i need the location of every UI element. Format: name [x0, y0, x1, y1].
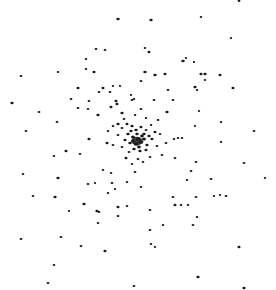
star-dot	[144, 47, 147, 49]
star-dot	[110, 172, 113, 174]
star-dot	[173, 138, 176, 140]
star-dot	[204, 79, 206, 81]
star-dot	[140, 108, 143, 110]
star-dot	[115, 103, 118, 105]
star-dot	[144, 149, 147, 151]
star-dot	[140, 135, 144, 138]
star-dot	[130, 125, 133, 128]
star-dot	[134, 114, 137, 116]
star-dot	[213, 195, 215, 197]
star-dot	[107, 130, 110, 132]
star-dot	[218, 74, 221, 76]
star-dot	[107, 192, 110, 194]
star-dot	[98, 211, 101, 213]
star-dot	[200, 16, 203, 18]
star-dot	[153, 131, 156, 133]
star-dot	[159, 133, 162, 135]
star-dot	[124, 157, 127, 159]
star-dot	[167, 89, 170, 91]
star-dot	[56, 177, 59, 180]
star-dot	[220, 141, 223, 143]
star-dot	[264, 177, 266, 179]
star-dot	[150, 243, 153, 245]
star-dot	[47, 282, 50, 284]
star-dot	[149, 209, 152, 211]
star-field-image	[0, 0, 276, 290]
star-dot	[219, 194, 221, 196]
star-dot	[98, 91, 101, 93]
star-dot	[114, 188, 116, 190]
star-dot	[123, 139, 126, 141]
star-dot	[154, 246, 156, 248]
star-dot	[25, 130, 28, 132]
star-dot	[174, 157, 177, 159]
star-dot	[88, 100, 91, 102]
star-dot	[117, 215, 120, 217]
star-dot	[172, 196, 175, 198]
star-dot	[82, 203, 85, 206]
star-dot	[133, 285, 136, 287]
star-dot	[192, 224, 195, 226]
star-dot	[76, 87, 79, 89]
star-dot	[194, 125, 196, 127]
star-dot	[195, 196, 198, 198]
star-dot	[220, 121, 223, 123]
star-dot	[121, 127, 124, 129]
star-dot	[210, 178, 213, 180]
star-dot	[196, 89, 199, 91]
star-dot	[104, 49, 107, 51]
star-dot	[138, 150, 141, 153]
star-dot	[139, 126, 142, 128]
star-dot	[181, 60, 185, 63]
star-dot	[142, 137, 146, 140]
star-dot	[253, 130, 256, 132]
star-dot	[116, 123, 119, 126]
star-dot	[231, 87, 234, 89]
star-dot	[126, 133, 130, 136]
star-dot	[94, 182, 96, 184]
star-dot	[134, 142, 138, 145]
star-dot	[101, 87, 104, 89]
star-dot	[150, 124, 153, 126]
star-dot	[116, 18, 120, 21]
star-dot	[129, 130, 132, 133]
star-dot	[133, 98, 136, 100]
star-dot	[181, 137, 184, 139]
star-dot	[149, 156, 152, 158]
star-dot	[77, 107, 80, 109]
star-dot	[53, 264, 56, 266]
star-dot	[132, 148, 136, 151]
star-dot	[142, 161, 145, 163]
star-dot	[125, 123, 128, 125]
star-dot	[131, 139, 135, 142]
star-dot	[177, 137, 180, 139]
star-dot	[57, 71, 60, 73]
star-dot	[173, 204, 176, 206]
star-dot	[186, 179, 189, 181]
star-dot	[126, 205, 129, 207]
star-dot	[153, 74, 157, 77]
star-dot	[119, 85, 121, 87]
star-dot	[53, 196, 56, 199]
star-dot	[126, 181, 129, 183]
star-dot	[56, 121, 59, 123]
star-dot	[22, 173, 25, 175]
star-dot	[143, 71, 147, 74]
star-dot	[102, 169, 105, 171]
star-dot	[137, 158, 140, 160]
star-dot	[134, 129, 138, 132]
star-dot	[120, 112, 123, 115]
star-dot	[135, 133, 139, 136]
star-dot	[20, 238, 23, 240]
star-dot	[139, 140, 144, 144]
star-dot	[161, 154, 164, 156]
star-dot	[243, 162, 246, 164]
star-dot	[80, 245, 83, 247]
star-dot	[111, 182, 114, 184]
star-dot	[242, 287, 245, 290]
star-dot	[165, 111, 168, 114]
star-dot	[149, 19, 152, 22]
star-dot	[198, 110, 200, 112]
star-dot	[172, 99, 175, 101]
star-dot	[97, 222, 100, 224]
